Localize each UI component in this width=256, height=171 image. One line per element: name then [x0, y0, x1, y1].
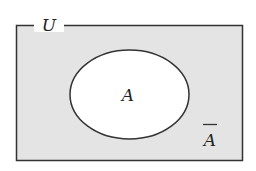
universe-label: U	[42, 15, 57, 35]
set-a-label: A	[120, 85, 134, 105]
complement-label: A	[202, 130, 216, 150]
venn-diagram: U A A	[0, 0, 256, 171]
